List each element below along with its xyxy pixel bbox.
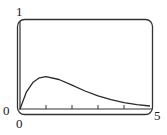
screen-frame (18, 20, 153, 115)
x-max-label: 5 (154, 109, 161, 122)
y-min-label: 0 (3, 104, 10, 117)
y-max-label: 1 (16, 5, 23, 18)
chart-plot (0, 0, 167, 135)
x-min-label: 0 (16, 117, 23, 130)
curve-series (20, 77, 150, 109)
